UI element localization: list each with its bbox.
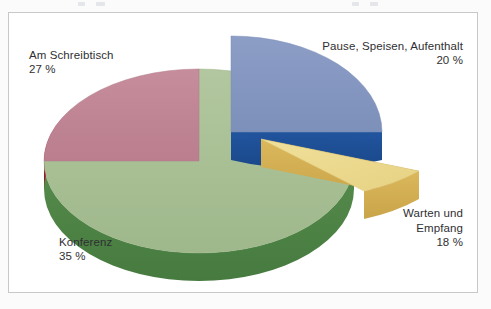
label-warten-percent: 18 % xyxy=(403,235,463,250)
label-am-schreibtisch-name: Am Schreibtisch xyxy=(29,49,114,61)
label-pause-name: Pause, Speisen, Aufenthalt xyxy=(322,40,463,52)
label-am-schreibtisch-percent: 27 % xyxy=(29,62,114,77)
chart-frame: Am Schreibtisch 27 % Pause, Speisen, Auf… xyxy=(8,12,478,293)
scan-artifact-strip xyxy=(0,0,491,9)
label-am-schreibtisch: Am Schreibtisch 27 % xyxy=(29,33,114,91)
label-pause-speisen-aufenthalt: Pause, Speisen, Aufenthalt 20 % xyxy=(322,24,463,82)
label-konferenz-name: Konferenz xyxy=(59,236,112,248)
label-warten-name: Warten und Empfang xyxy=(403,207,463,234)
label-konferenz: Konferenz 35 % xyxy=(59,220,112,278)
label-konferenz-percent: 35 % xyxy=(59,249,112,264)
label-warten-und-empfang: Warten und Empfang 18 % xyxy=(403,192,463,265)
label-pause-percent: 20 % xyxy=(322,53,463,68)
